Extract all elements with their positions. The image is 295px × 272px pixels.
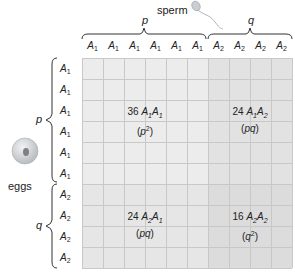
row-header: A1: [60, 142, 71, 163]
sperm-label: sperm: [157, 4, 188, 16]
column-header: A1: [145, 40, 166, 52]
column-header: A1: [124, 40, 145, 52]
grid-line: [82, 247, 292, 248]
row-header: A2: [60, 226, 71, 247]
punnett-grid: 36 A1A1 (p2) 24 A1A2 (pq) 24 A2A1 (pq) 1…: [82, 58, 292, 268]
grid-line: [82, 184, 292, 185]
egg-icon: [10, 136, 40, 166]
quadrant-text-a2a2: 16 A2A2 (q2): [218, 210, 282, 243]
quadrant-text-a1a1: 36 A1A1 (p2): [112, 105, 178, 138]
eggs-label: eggs: [8, 180, 32, 192]
grid-line: [82, 268, 292, 269]
column-header: A1: [103, 40, 124, 52]
row-header: A2: [60, 184, 71, 205]
column-header: A2: [250, 40, 271, 52]
row-header: A2: [60, 205, 71, 226]
column-braces: [80, 26, 295, 40]
row-braces: [44, 56, 58, 270]
grid-line: [82, 163, 292, 164]
column-header: A1: [82, 40, 103, 52]
column-header: A2: [271, 40, 292, 52]
quadrant-text-a2a1: 24 A2A1 (pq): [112, 210, 178, 240]
row-header: A1: [60, 121, 71, 142]
row-header: A1: [60, 163, 71, 184]
row-header: A2: [60, 247, 71, 268]
grid-line: [208, 58, 209, 268]
column-header: A1: [187, 40, 208, 52]
col-group-p-label: p: [142, 14, 148, 26]
column-header: A2: [208, 40, 229, 52]
row-header: A1: [60, 79, 71, 100]
column-header: A2: [229, 40, 250, 52]
quadrant-text-a1a2: 24 A1A2 (pq): [218, 105, 282, 135]
col-group-q-label: q: [248, 14, 254, 26]
row-group-p-label: p: [36, 113, 42, 125]
row-header: A1: [60, 58, 71, 79]
row-group-q-label: q: [36, 219, 42, 231]
grid-line: [292, 58, 293, 268]
grid-line: [82, 205, 292, 206]
row-header: A1: [60, 100, 71, 121]
column-header: A1: [166, 40, 187, 52]
